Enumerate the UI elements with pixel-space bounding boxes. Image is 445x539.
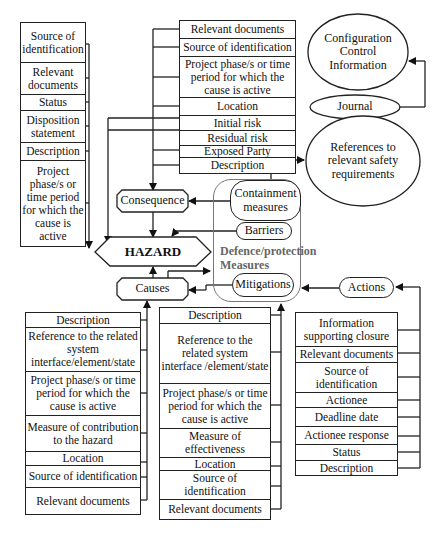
- table-row: Reference to the related system interfac…: [160, 324, 270, 384]
- barriers-node[interactable]: Barriers: [236, 222, 292, 240]
- causes-node[interactable]: Causes: [117, 278, 188, 300]
- table-row: Description: [180, 158, 295, 173]
- table-row: Actionee response: [296, 427, 397, 445]
- containment-measures-node[interactable]: Containment measures: [230, 180, 301, 221]
- actions-node[interactable]: Actions: [339, 277, 394, 298]
- table-row: Status: [296, 445, 397, 461]
- journal-node[interactable]: Journal: [315, 98, 395, 116]
- table-row: Source of identification: [180, 39, 295, 57]
- table-row: Relevant documents: [160, 500, 270, 519]
- table-row: Location: [180, 98, 295, 116]
- table-row: Project phase/s or time period for which…: [160, 384, 270, 429]
- table-row: Description: [160, 308, 270, 324]
- table-row: Project phase/s or time period for which…: [21, 161, 85, 246]
- cause-attributes-table: Description Reference to the related sys…: [25, 312, 141, 515]
- table-row: Relevant documents: [180, 21, 295, 39]
- table-row: Source of identification: [160, 471, 270, 500]
- table-row: Location: [160, 458, 270, 471]
- table-row: Relevant documents: [26, 488, 140, 514]
- table-row: Source of identification: [26, 466, 140, 488]
- table-row: Relevant documents: [296, 347, 397, 363]
- hazard-node[interactable]: HAZARD: [95, 237, 211, 266]
- table-row: Measure of contribution to the hazard: [26, 416, 140, 452]
- table-row: Deadline date: [296, 408, 397, 427]
- mitigation-attributes-table: Description Reference to the related sys…: [159, 307, 271, 520]
- consequence-node[interactable]: Consequence: [117, 190, 188, 212]
- mitigations-node[interactable]: Mitigations: [232, 273, 294, 297]
- defence-protection-label: Defence/protection Measures: [220, 244, 310, 272]
- consequence-attributes-table: Relevant documents Source of identificat…: [179, 20, 296, 174]
- table-row: Information supporting closure: [296, 313, 397, 347]
- table-row: Project phase/s or time period for which…: [180, 57, 295, 98]
- action-attributes-table: Information supporting closure Relevant …: [295, 312, 398, 476]
- table-row: Description: [21, 143, 85, 161]
- table-row: Source of identification: [21, 23, 85, 63]
- table-row: Disposition statement: [21, 111, 85, 143]
- table-row: Description: [26, 313, 140, 328]
- table-row: Project phase/s or time period for which…: [26, 372, 140, 416]
- table-row: Relevant documents: [21, 63, 85, 95]
- table-row: Status: [21, 95, 85, 111]
- table-row: Reference to the related system interfac…: [26, 328, 140, 372]
- table-row: Description: [296, 461, 397, 475]
- references-node[interactable]: References to relevant safety requiremen…: [318, 128, 408, 194]
- hazard-attributes-table: Source of identification Relevant docume…: [20, 22, 86, 247]
- table-row: Source of identification: [296, 363, 397, 393]
- table-row: Exposed Party: [180, 146, 295, 158]
- table-row: Location: [26, 452, 140, 466]
- table-row: Initial risk: [180, 116, 295, 131]
- config-control-node[interactable]: Configuration Control Information: [313, 18, 403, 86]
- table-row: Actionee: [296, 393, 397, 408]
- table-row: Residual risk: [180, 131, 295, 146]
- table-row: Measure of effectiveness: [160, 429, 270, 458]
